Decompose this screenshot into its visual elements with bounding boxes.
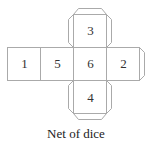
face-bottom-label: 4 [74, 91, 107, 105]
top-flap [74, 9, 107, 15]
diagram-caption: Net of dice [0, 126, 152, 142]
bottom-flap [74, 114, 107, 120]
face-center-label: 6 [74, 57, 107, 71]
face-left-2-label: 5 [41, 57, 74, 71]
dice-net-drawing [0, 0, 152, 143]
face-left-1-label: 1 [8, 57, 41, 71]
face-top-label: 3 [74, 24, 107, 38]
right-flap [140, 48, 145, 81]
face-right-label: 2 [107, 57, 140, 71]
